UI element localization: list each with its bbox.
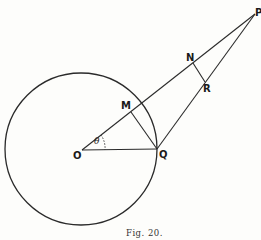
line-NR — [193, 63, 205, 82]
label-P: P — [255, 7, 261, 18]
line-MQ — [131, 112, 157, 149]
line-QP — [157, 14, 255, 149]
label-N: N — [186, 52, 194, 63]
figure-canvas: P N R M O Q θ Fig. 20. — [0, 0, 261, 240]
angle-arc — [101, 135, 105, 150]
figure-caption: Fig. 20. — [126, 228, 163, 238]
label-M: M — [121, 100, 131, 111]
label-R: R — [203, 83, 211, 94]
geometry-figure: P N R M O Q θ Fig. 20. — [0, 0, 261, 240]
label-O: O — [73, 150, 82, 161]
line-OP — [82, 14, 255, 150]
label-Q: Q — [159, 149, 168, 160]
label-theta: θ — [94, 136, 100, 146]
line-OQ — [82, 149, 157, 150]
